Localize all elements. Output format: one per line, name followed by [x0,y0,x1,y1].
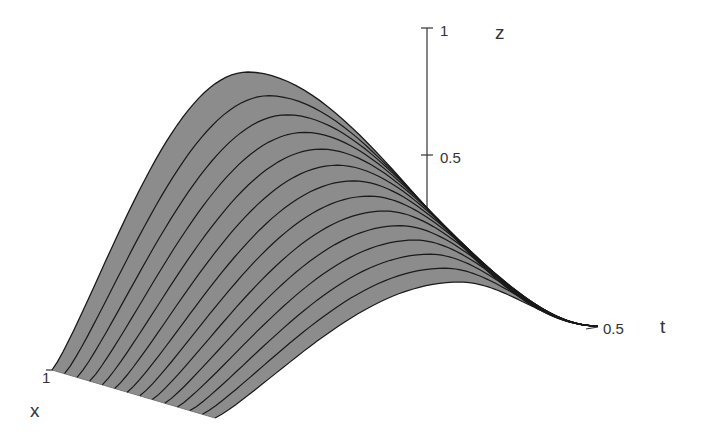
z-tick-label-1: 1 [440,22,448,39]
z-tick-label-05: 0.5 [440,149,461,166]
x-tick-label-1: 1 [42,369,50,386]
t-axis-title: t [660,316,665,338]
surface-plot [0,0,702,439]
t-tick-05 [586,327,598,329]
t-tick-label-05: 0.5 [603,320,624,337]
z-axis-title: z [495,22,505,44]
surface-mesh [52,72,598,418]
x-axis-title: x [30,400,40,422]
